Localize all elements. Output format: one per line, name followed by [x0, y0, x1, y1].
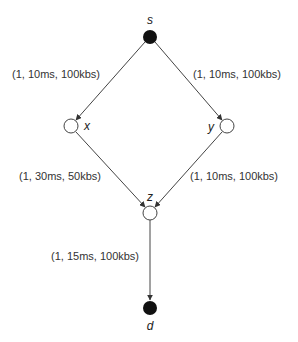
node-d [143, 301, 157, 315]
edge-label-s-y: (1, 10ms, 100kbs) [193, 68, 281, 80]
node-label-y: y [207, 120, 215, 134]
edge-s-y [155, 42, 222, 120]
node-s [143, 30, 157, 44]
edge-label-x-z: (1, 30ms, 50kbs) [19, 170, 101, 182]
edge-label-y-z: (1, 10ms, 100kbs) [190, 170, 278, 182]
node-label-d: d [147, 319, 154, 333]
edge-label-z-d: (1, 15ms, 100kbs) [51, 250, 139, 262]
node-z [143, 206, 157, 220]
node-label-z: z [146, 190, 153, 204]
node-x [64, 119, 78, 133]
node-y [220, 119, 234, 133]
edge-s-x [76, 42, 145, 120]
edge-label-s-x: (1, 10ms, 100kbs) [12, 68, 100, 80]
network-diagram: (1, 10ms, 100kbs) (1, 10ms, 100kbs) (1, … [0, 0, 298, 342]
node-label-x: x [83, 119, 91, 133]
node-label-s: s [147, 13, 153, 27]
